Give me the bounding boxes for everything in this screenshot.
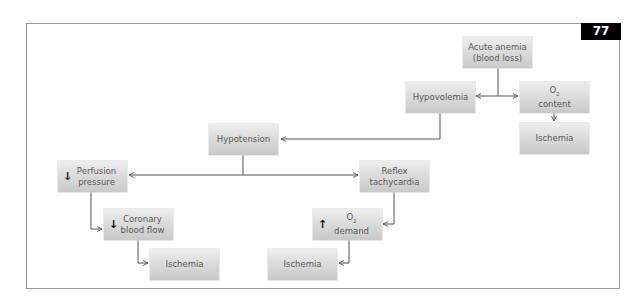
node-label: blood flow bbox=[121, 225, 165, 236]
node-label: Acute anemia bbox=[468, 42, 527, 53]
node-label: Coronary bbox=[121, 214, 165, 225]
node-label: Hypovolemia bbox=[413, 92, 469, 103]
up-arrow-icon: ↑ bbox=[318, 219, 327, 230]
down-arrow-icon: ↓ bbox=[63, 171, 72, 182]
node-o2-demand: ↑ O2 demand bbox=[313, 209, 382, 240]
node-o2-content: O2 content bbox=[520, 82, 589, 113]
node-label: demand bbox=[334, 226, 369, 237]
node-label: tachycardia bbox=[370, 177, 420, 188]
node-label: content bbox=[538, 99, 571, 110]
down-arrow-icon: ↓ bbox=[109, 219, 118, 230]
node-acute-anemia: Acute anemia (blood loss) bbox=[463, 37, 532, 68]
node-ischemia-right: Ischemia bbox=[520, 123, 589, 154]
node-label: Reflex bbox=[370, 166, 420, 177]
node-coronary-blood-flow: ↓ Coronary blood flow bbox=[104, 209, 173, 240]
node-hypovolemia: Hypovolemia bbox=[406, 82, 475, 113]
node-perfusion-pressure: ↓ Perfusion pressure bbox=[58, 161, 127, 192]
node-ischemia-left: Ischemia bbox=[150, 249, 219, 280]
node-label: Perfusion bbox=[77, 166, 116, 177]
node-label: O2 bbox=[538, 85, 571, 99]
node-ischemia-middle: Ischemia bbox=[268, 249, 337, 280]
node-label: (blood loss) bbox=[468, 53, 527, 64]
node-label: Ischemia bbox=[165, 259, 203, 270]
node-label: Ischemia bbox=[535, 133, 573, 144]
node-label: Ischemia bbox=[283, 259, 321, 270]
node-label: pressure bbox=[77, 177, 116, 188]
node-label: Hypotension bbox=[217, 134, 270, 145]
node-hypotension: Hypotension bbox=[209, 124, 278, 155]
node-reflex-tachycardia: Reflex tachycardia bbox=[360, 161, 429, 192]
node-label: O2 bbox=[334, 212, 369, 226]
